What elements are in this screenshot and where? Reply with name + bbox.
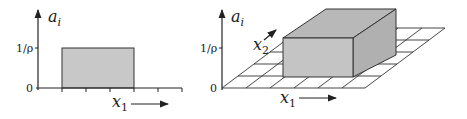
x-ticks: [62, 88, 182, 92]
left-1d-plot: 1/ρ 0 ai x1: [16, 7, 182, 114]
y-tick-label-zero: 0: [210, 82, 217, 95]
uniform-distribution-diagram: 1/ρ 0 ai x1: [0, 0, 467, 119]
uniform-box-2d: [283, 9, 396, 77]
y-tick-label-top: 1/ρ: [16, 42, 33, 55]
y-axis-label: ai: [48, 7, 61, 29]
uniform-box-1d: [62, 48, 134, 88]
x1-axis-label: x1: [280, 88, 296, 110]
x-axis-label: x1: [112, 92, 128, 114]
y-axis-label: ai: [231, 7, 244, 29]
right-2d-plot: 1/ρ 0 ai x2 x1: [200, 7, 445, 110]
y-tick-label-top: 1/ρ: [200, 42, 217, 55]
y-tick-label-zero: 0: [26, 82, 33, 95]
x2-direction-arrow: [264, 30, 276, 40]
box-front-face: [283, 38, 353, 77]
